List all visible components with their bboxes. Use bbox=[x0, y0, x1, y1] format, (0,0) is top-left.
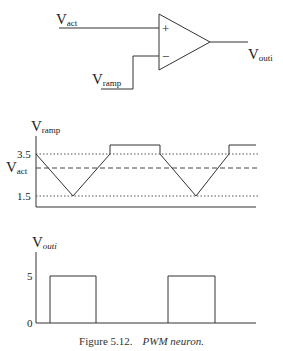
figure-title: PWM neuron. bbox=[143, 335, 204, 347]
output-y-label: Vouti bbox=[32, 234, 57, 251]
output-pulse-1 bbox=[50, 276, 96, 323]
ramp-y-label: Vramp bbox=[31, 118, 61, 135]
tick-3-5: 3.5 bbox=[17, 148, 31, 160]
ramp-plot bbox=[36, 136, 258, 207]
figure-number: Figure 5.12. bbox=[79, 335, 132, 347]
tick-vact: Vact bbox=[6, 159, 28, 176]
minus-sign: − bbox=[162, 49, 169, 64]
figure-caption: Figure 5.12.PWM neuron. bbox=[0, 335, 283, 347]
tick-0: 0 bbox=[27, 317, 33, 329]
output-plot bbox=[36, 252, 256, 323]
tick-1-5: 1.5 bbox=[17, 190, 31, 202]
vramp-input-label: Vramp bbox=[92, 71, 122, 88]
tick-5: 5 bbox=[27, 270, 33, 282]
output-pulse-2 bbox=[168, 276, 215, 323]
plus-sign: + bbox=[162, 21, 169, 36]
comparator-circuit bbox=[59, 14, 248, 89]
vouti-output-label: Vouti bbox=[248, 46, 273, 63]
ramp-waveform bbox=[36, 145, 256, 196]
vact-input-label: Vact bbox=[56, 11, 78, 28]
pwm-neuron-diagram: + − Vact Vramp Vouti Vramp 3.5 Vact 1.5 … bbox=[0, 0, 283, 351]
